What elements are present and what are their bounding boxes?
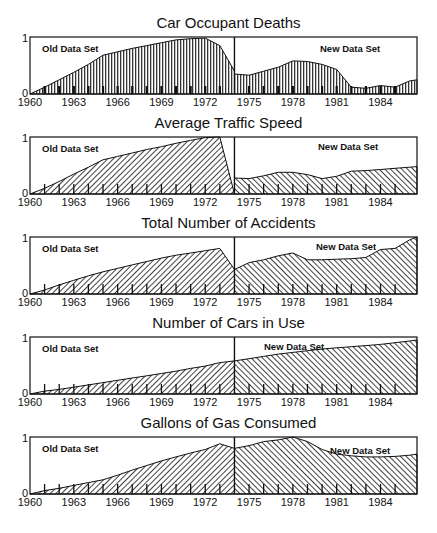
x-tick-label: 1960 bbox=[18, 496, 42, 508]
x-tick-label: 1963 bbox=[62, 396, 86, 408]
x-tick-label: 1969 bbox=[149, 96, 173, 108]
x-tick-label: 1963 bbox=[62, 296, 86, 308]
x-tick-label: 1966 bbox=[105, 196, 129, 208]
x-tick-label: 1972 bbox=[193, 496, 217, 508]
y-tick-label: 1 bbox=[22, 432, 28, 444]
x-tick-label: 1978 bbox=[281, 196, 305, 208]
old-data-set-label: Old Data Set bbox=[42, 443, 99, 454]
x-tick-label: 1966 bbox=[105, 296, 129, 308]
chart-title: Car Occupant Deaths bbox=[156, 14, 300, 31]
new-data-area bbox=[235, 340, 418, 394]
chart-1: Car Occupant Deaths101960196319661969197… bbox=[18, 14, 417, 108]
x-tick-label: 1969 bbox=[149, 296, 173, 308]
x-tick-label: 1963 bbox=[62, 96, 86, 108]
x-tick-label: 1984 bbox=[368, 96, 392, 108]
x-tick-label: 1981 bbox=[324, 96, 348, 108]
x-tick-label: 1984 bbox=[368, 496, 392, 508]
x-tick-label: 1960 bbox=[18, 96, 42, 108]
new-data-area bbox=[235, 61, 418, 94]
x-tick-label: 1960 bbox=[18, 196, 42, 208]
new-data-set-label: New Data Set bbox=[330, 445, 391, 456]
x-tick-label: 1969 bbox=[149, 496, 173, 508]
x-tick-label: 1981 bbox=[324, 196, 348, 208]
chart-5: Gallons of Gas Consumed10196019631966196… bbox=[18, 414, 417, 508]
new-data-set-label: New Data Set bbox=[318, 141, 379, 152]
x-tick-label: 1960 bbox=[18, 296, 42, 308]
y-tick-label: 1 bbox=[22, 232, 28, 244]
chart-4: Number of Cars in Use1019601963196619691… bbox=[18, 314, 417, 408]
x-tick-label: 1960 bbox=[18, 396, 42, 408]
x-tick-label: 1984 bbox=[368, 296, 392, 308]
chart-title: Number of Cars in Use bbox=[152, 314, 305, 331]
chart-3: Total Number of Accidents101960196319661… bbox=[18, 214, 417, 308]
new-data-area bbox=[235, 167, 418, 194]
old-data-set-label: Old Data Set bbox=[42, 43, 99, 54]
x-tick-label: 1978 bbox=[281, 496, 305, 508]
y-tick-label: 1 bbox=[22, 332, 28, 344]
x-tick-label: 1978 bbox=[281, 96, 305, 108]
x-tick-label: 1972 bbox=[193, 396, 217, 408]
x-tick-label: 1978 bbox=[281, 396, 305, 408]
chart-title: Total Number of Accidents bbox=[141, 214, 315, 231]
x-tick-label: 1975 bbox=[237, 196, 261, 208]
y-tick-label: 1 bbox=[22, 32, 28, 44]
old-data-set-label: Old Data Set bbox=[42, 143, 99, 154]
x-tick-label: 1966 bbox=[105, 496, 129, 508]
x-tick-label: 1975 bbox=[237, 496, 261, 508]
new-data-set-label: New Data Set bbox=[316, 241, 377, 252]
old-data-set-label: Old Data Set bbox=[42, 243, 99, 254]
chart-title: Average Traffic Speed bbox=[155, 114, 303, 131]
x-tick-label: 1981 bbox=[324, 296, 348, 308]
x-tick-label: 1969 bbox=[149, 196, 173, 208]
chart-stack: Car Occupant Deaths101960196319661969197… bbox=[0, 0, 437, 533]
x-tick-label: 1981 bbox=[324, 396, 348, 408]
chart-2: Average Traffic Speed1019601963196619691… bbox=[18, 114, 417, 208]
x-tick-label: 1966 bbox=[105, 396, 129, 408]
chart-title: Gallons of Gas Consumed bbox=[141, 414, 317, 431]
x-tick-label: 1975 bbox=[237, 96, 261, 108]
x-tick-label: 1975 bbox=[237, 396, 261, 408]
x-tick-label: 1972 bbox=[193, 296, 217, 308]
x-tick-label: 1969 bbox=[149, 396, 173, 408]
y-tick-label: 1 bbox=[22, 132, 28, 144]
old-data-set-label: Old Data Set bbox=[42, 343, 99, 354]
x-tick-label: 1984 bbox=[368, 196, 392, 208]
x-tick-label: 1975 bbox=[237, 296, 261, 308]
x-tick-label: 1972 bbox=[193, 96, 217, 108]
x-tick-label: 1984 bbox=[368, 396, 392, 408]
x-tick-label: 1978 bbox=[281, 296, 305, 308]
new-data-set-label: New Data Set bbox=[320, 43, 381, 54]
x-tick-label: 1963 bbox=[62, 496, 86, 508]
x-tick-label: 1972 bbox=[193, 196, 217, 208]
x-tick-label: 1963 bbox=[62, 196, 86, 208]
new-data-set-label: New Data Set bbox=[264, 341, 325, 352]
x-tick-label: 1981 bbox=[324, 496, 348, 508]
x-tick-label: 1966 bbox=[105, 96, 129, 108]
